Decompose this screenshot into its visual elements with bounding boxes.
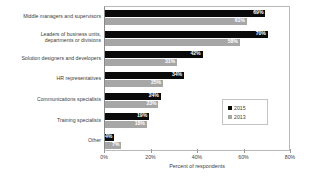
x-tick-label: 60%: [238, 153, 248, 161]
x-tick-label: 20%: [145, 153, 155, 161]
x-tick-mark: [104, 149, 105, 153]
x-axis-title: Percent of respondents: [104, 163, 290, 169]
bar-value-label: 58%: [228, 38, 238, 45]
bar-2015: 4%: [105, 134, 114, 141]
category-label: HR representatives: [1, 75, 101, 81]
bar-value-label: 18%: [135, 120, 145, 127]
bar-2015: 70%: [105, 31, 268, 38]
x-tick-mark: [244, 149, 245, 153]
bar-value-label: 31%: [165, 58, 175, 65]
bar-chart: Middle managers and supervisorsLeaders o…: [0, 0, 317, 182]
bar-2015: 34%: [105, 72, 184, 79]
legend-swatch-2013: [228, 115, 232, 119]
bar-group: 4%7%: [105, 134, 289, 149]
category-label: Middle managers and supervisors: [1, 13, 101, 19]
bar-value-label: 69%: [253, 9, 263, 16]
category-label: Solution designers and developers: [1, 55, 101, 61]
plot-area: 69%61%70%58%42%31%34%25%24%23%19%18%4%7%: [104, 6, 290, 151]
bar-2013: 58%: [105, 39, 240, 46]
x-tick-label: 40%: [192, 153, 202, 161]
category-label: Training specialists: [1, 117, 101, 123]
bar-value-label: 25%: [151, 79, 161, 86]
bar-value-label: 19%: [137, 112, 147, 119]
category-label: Other: [1, 137, 101, 143]
bar-value-label: 61%: [235, 17, 245, 24]
x-tick-mark: [197, 149, 198, 153]
x-tick-label: 0%: [100, 153, 108, 161]
category-label: Communications specialists: [1, 96, 101, 102]
legend-swatch-2015: [228, 106, 232, 110]
bar-value-label: 4%: [105, 133, 112, 140]
bar-group: 69%61%: [105, 10, 289, 25]
legend-item-2015: 2015: [228, 103, 267, 112]
legend-item-2013: 2013: [228, 112, 267, 121]
bar-2013: 61%: [105, 18, 247, 25]
bar-2015: 19%: [105, 113, 149, 120]
x-axis-ticks: 0%20%40%60%80%: [104, 153, 290, 162]
bar-value-label: 23%: [146, 100, 156, 107]
bar-group: 42%31%: [105, 51, 289, 66]
legend-label-2013: 2013: [234, 114, 246, 120]
x-tick-label: 80%: [285, 153, 295, 161]
x-tick-mark: [151, 149, 152, 153]
bar-2013: 7%: [105, 142, 121, 149]
bar-value-label: 24%: [149, 92, 159, 99]
x-tick-mark: [290, 149, 291, 153]
legend-label-2015: 2015: [234, 105, 246, 111]
chart-legend: 2015 2013: [222, 99, 268, 125]
bar-value-label: 70%: [256, 30, 266, 37]
bar-2015: 42%: [105, 51, 203, 58]
bar-2015: 24%: [105, 93, 161, 100]
bar-group: 70%58%: [105, 31, 289, 46]
category-axis-labels: Middle managers and supervisorsLeaders o…: [0, 6, 101, 151]
bar-value-label: 34%: [172, 71, 182, 78]
category-label: Leaders of business units,departments or…: [1, 31, 101, 44]
bar-value-label: 42%: [191, 50, 201, 57]
bar-2013: 31%: [105, 59, 177, 66]
bar-value-label: 7%: [112, 141, 119, 148]
bar-2015: 69%: [105, 10, 265, 17]
bar-group: 34%25%: [105, 72, 289, 87]
bar-2013: 23%: [105, 101, 158, 108]
bar-2013: 18%: [105, 121, 147, 128]
bar-2013: 25%: [105, 80, 163, 87]
